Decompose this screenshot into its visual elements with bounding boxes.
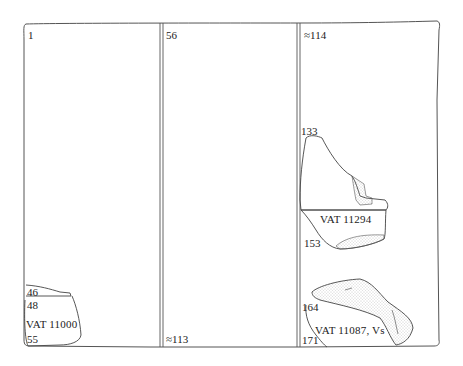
- fragment-1-line-48-label: 48: [27, 300, 38, 311]
- fragment-2-id-label: VAT 11294: [320, 214, 371, 225]
- fragment-2-line-153-label: 153: [304, 238, 321, 249]
- fragment-3-line-164-label: 164: [302, 302, 319, 313]
- column-3-start-line-label: ≈114: [304, 30, 326, 41]
- tablet-outline-drawing: [0, 0, 463, 366]
- column-divider-2: [297, 23, 300, 347]
- fragment-1-line-55-label: 55: [27, 334, 38, 345]
- column-2-start-line-label: 56: [166, 30, 177, 41]
- fragment-3-id-label: VAT 11087, Vs: [315, 325, 385, 336]
- fragment-vat-11087-vs: [306, 279, 413, 347]
- fragment-2-line-133-label: 133: [301, 126, 318, 137]
- column-divider-1: [160, 23, 163, 347]
- fragment-3-line-171-label: 171: [302, 335, 319, 346]
- fragment-1-id-label: VAT 11000: [26, 319, 77, 330]
- fragment-1-line-46-label: 46: [27, 287, 38, 298]
- column-1-start-line-label: 1: [28, 30, 34, 41]
- column-2-end-line-label: ≈113: [166, 334, 188, 345]
- fragment-vat-11294: [300, 136, 388, 249]
